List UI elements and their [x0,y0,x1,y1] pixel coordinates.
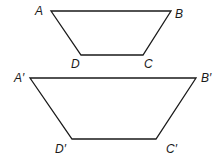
label-b: B [175,7,183,21]
label-c: C [144,57,153,71]
similar-trapezoids-diagram: A B C D A′ B′ C′ D′ [0,0,222,159]
label-d-prime: D′ [55,142,67,156]
label-a: A [34,4,43,18]
label-d: D [71,57,80,71]
label-b-prime: B′ [201,71,212,85]
trapezoid-abcd [51,11,171,55]
label-c-prime: C′ [166,142,178,156]
label-a-prime: A′ [13,71,25,85]
trapezoid-a-prime-b-prime-c-prime-d-prime [30,78,196,139]
